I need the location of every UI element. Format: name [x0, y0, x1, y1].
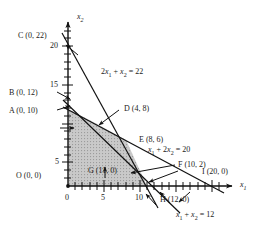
linear-programming-feasible-region-chart: C (0, 22) B (0, 12) A (0, 10) D (4, 8) E…	[0, 0, 279, 235]
xtick-label-5: 5	[101, 194, 105, 202]
point-label-O: O (0, 0)	[16, 172, 41, 180]
point-label-G: G (11, 0)	[88, 167, 117, 175]
ytick-label-15: 15	[50, 81, 58, 89]
point-label-I: I (20, 0)	[202, 168, 228, 176]
xtick-label-0: 0	[65, 194, 69, 202]
ytick-label-5: 5	[55, 158, 59, 166]
x-axis-title: x1	[240, 181, 247, 191]
point-label-E: E (8, 6)	[139, 136, 163, 144]
point-label-D: D (4, 8)	[124, 105, 149, 113]
point-label-B: B (0, 12)	[9, 89, 38, 97]
y-axis-title: x2	[77, 13, 84, 23]
equation-label-2x1-x2-22: 2x1 + x2 = 22	[101, 68, 143, 78]
point-label-A: A (0, 10)	[9, 107, 38, 115]
equation-label-x1-2x2-20: x1 + 2x2 = 20	[148, 146, 190, 156]
equation-label-x1-x2-12: x1 + x2 = 12	[176, 211, 214, 221]
point-label-H: H (12, 0)	[160, 196, 189, 204]
ytick-label-20: 20	[50, 42, 58, 50]
point-label-C: C (0, 22)	[18, 32, 47, 40]
xtick-label-10: 10	[135, 194, 143, 202]
